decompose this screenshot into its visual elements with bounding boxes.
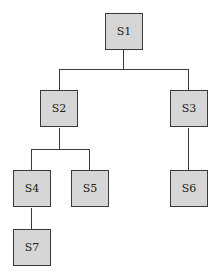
edge-to-s5 — [89, 149, 90, 170]
node-label: S5 — [83, 182, 98, 195]
node-s4: S4 — [13, 170, 51, 207]
edge-s1-down — [123, 49, 124, 69]
node-s5: S5 — [71, 170, 109, 207]
edge-to-s2 — [59, 69, 60, 90]
node-s6: S6 — [170, 170, 208, 207]
node-label: S3 — [182, 102, 197, 115]
edge-to-s3 — [188, 69, 189, 90]
node-label: S4 — [25, 182, 40, 195]
edge-s1-bar — [59, 69, 189, 70]
edge-to-s4 — [31, 149, 32, 170]
node-label: S6 — [182, 182, 197, 195]
edge-s2-down — [59, 128, 60, 149]
node-label: S1 — [117, 25, 132, 38]
node-s2: S2 — [40, 90, 78, 127]
node-s1: S1 — [105, 13, 143, 50]
node-label: S7 — [25, 241, 40, 254]
node-s7: S7 — [13, 229, 51, 266]
edge-s4-to-s7 — [31, 208, 32, 229]
node-s3: S3 — [170, 90, 208, 127]
edge-s2-bar — [31, 149, 90, 150]
node-label: S2 — [52, 102, 67, 115]
edge-s3-to-s6 — [188, 128, 189, 170]
